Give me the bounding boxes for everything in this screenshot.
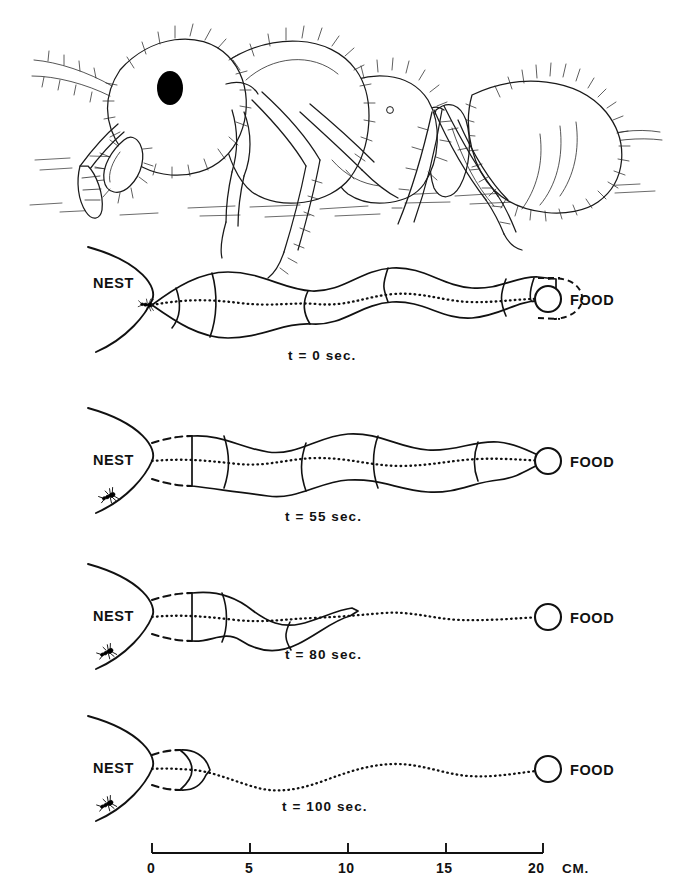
scale-tick-label-5: 5 — [245, 860, 253, 876]
scale-tick-label-0: 0 — [147, 860, 155, 876]
time-label: t = 100 sec. — [282, 799, 368, 814]
pheromone-trail-figure: NEST FOOD t = 0 sec. — [0, 0, 674, 888]
food-circle — [535, 286, 561, 312]
nest-label: NEST — [93, 760, 134, 776]
time-label: t = 0 sec. — [288, 348, 356, 363]
nest-label: NEST — [93, 608, 134, 624]
time-label: t = 80 sec. — [285, 647, 362, 662]
scale-unit-label: CM. — [562, 861, 589, 876]
food-label: FOOD — [570, 454, 614, 470]
nest-label: NEST — [93, 452, 134, 468]
nest-label: NEST — [93, 275, 134, 291]
food-label: FOOD — [570, 292, 614, 308]
scale-tick-label-10: 10 — [338, 860, 355, 876]
food-circle — [535, 756, 561, 782]
time-label: t = 55 sec. — [285, 509, 362, 524]
scale-tick-label-15: 15 — [436, 860, 453, 876]
food-circle — [535, 448, 561, 474]
food-circle — [535, 604, 561, 630]
food-label: FOOD — [570, 762, 614, 778]
ant-eye — [157, 71, 183, 105]
food-label: FOOD — [570, 610, 614, 626]
ant-spiracle — [387, 107, 394, 114]
scale-tick-label-20: 20 — [528, 860, 545, 876]
